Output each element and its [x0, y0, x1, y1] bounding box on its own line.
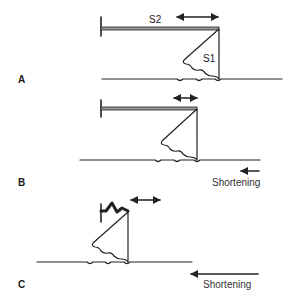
- panel-label-c: C: [18, 279, 25, 290]
- sliding-filament-diagram: A S2 S1 B Shortening C: [0, 0, 294, 300]
- panel-label-a: A: [18, 74, 25, 85]
- panel-b: B Shortening: [18, 98, 260, 188]
- s2-lever-arm: [101, 100, 197, 117]
- s2-lever-arm-compressed: [101, 203, 128, 222]
- s2-label: S2: [149, 14, 162, 25]
- shortening-label: Shortening: [203, 279, 251, 290]
- actin-filament: [80, 160, 260, 162]
- s1-myosin-head: [92, 212, 128, 262]
- panel-label-b: B: [18, 177, 25, 188]
- actin-filament: [37, 262, 192, 264]
- panel-c: C Shortening: [18, 200, 258, 290]
- shortening-label: Shortening: [212, 177, 260, 188]
- panel-a: A S2 S1: [18, 14, 282, 85]
- s1-myosin-head: [161, 109, 197, 160]
- actin-filament: [102, 79, 282, 81]
- s1-label: S1: [203, 53, 216, 64]
